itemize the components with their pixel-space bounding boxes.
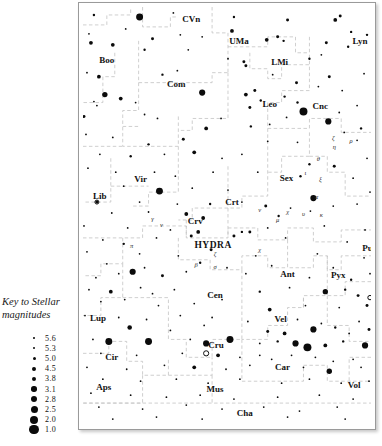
magnitude-legend: Key to Stellar magnitudes 5.65.35.04.53.… <box>0 296 78 446</box>
star-point <box>310 210 312 212</box>
star-point <box>151 37 154 40</box>
star-point <box>88 33 90 35</box>
star-point <box>161 73 163 75</box>
star-point <box>352 358 354 360</box>
star-point <box>177 255 179 257</box>
constellation-boundary-line <box>178 166 228 220</box>
star-point <box>102 92 107 97</box>
star-point <box>318 394 320 396</box>
star-point <box>109 290 113 294</box>
legend-row: 5.6 <box>26 333 56 343</box>
star-point <box>350 279 352 281</box>
deep-sky-object-marker <box>204 351 209 356</box>
star-point <box>323 343 327 347</box>
star-point <box>268 308 272 312</box>
star-point <box>88 289 90 291</box>
star-point <box>296 101 298 103</box>
star-point <box>130 394 132 396</box>
star-point <box>248 106 251 109</box>
star-point <box>211 317 213 319</box>
star-point <box>145 338 152 345</box>
star-point <box>199 90 205 96</box>
legend-magnitude-value: 3.1 <box>45 385 56 394</box>
star-point <box>130 269 136 275</box>
constellation-label-crt: Crt <box>225 197 239 207</box>
star-point <box>305 305 307 307</box>
star-point <box>227 336 234 343</box>
legend-star-dot <box>26 416 42 424</box>
star-point <box>144 267 146 269</box>
legend-row: 5.0 <box>26 353 56 363</box>
star-point <box>164 364 166 366</box>
star-designation-label: ζ <box>332 134 335 141</box>
star-point <box>333 18 337 22</box>
star-point <box>176 203 178 205</box>
legend-magnitude-value: 2.5 <box>45 405 56 414</box>
star-point <box>332 205 334 207</box>
constellation-label-vel: Vel <box>275 314 287 324</box>
constellation-boundary-line <box>83 7 131 25</box>
star-point <box>86 251 88 253</box>
star-point <box>179 34 181 36</box>
legend-star-dot <box>26 406 42 413</box>
star-point <box>221 157 223 159</box>
legend-magnitude-value: 2.0 <box>45 415 56 424</box>
star-point <box>352 398 354 400</box>
constellation-boundary-line <box>83 341 168 375</box>
star-point <box>102 239 104 241</box>
star-point <box>127 227 129 229</box>
legend-star-dot <box>26 386 42 391</box>
star-point <box>343 132 345 134</box>
legend-entries: 5.65.35.04.53.83.12.82.52.01.0 <box>26 333 56 435</box>
constellation-label-cen: Cen <box>207 290 223 300</box>
star-point <box>156 237 158 239</box>
star-chart-frame: CVnUMaLynBooLMiComLeoCncVirSexLibCrtCrvH… <box>78 2 376 430</box>
star-point <box>241 153 243 155</box>
legend-star-dot <box>26 396 42 402</box>
star-point <box>297 319 299 321</box>
star-point <box>86 366 88 368</box>
constellation-label-lib: Lib <box>93 191 107 201</box>
star-point <box>249 364 251 366</box>
star-point <box>339 14 342 17</box>
star-point <box>175 378 177 380</box>
star-point <box>338 307 340 309</box>
star-point <box>100 352 102 354</box>
star-point <box>328 75 331 78</box>
star-point <box>282 40 284 42</box>
star-point <box>292 340 298 346</box>
constellation-label-ant: Ant <box>280 269 295 279</box>
constellation-label-car: Car <box>275 362 290 372</box>
star-point <box>172 12 174 14</box>
star-point <box>310 326 316 332</box>
constellation-boundary-line <box>83 238 123 276</box>
star-point <box>363 73 365 75</box>
legend-star-dot <box>26 357 42 360</box>
star-point <box>308 163 310 165</box>
star-point <box>201 418 203 420</box>
star-point <box>303 343 311 351</box>
star-point <box>323 289 328 294</box>
star-point <box>216 353 220 357</box>
star-designation-label: β <box>195 260 198 267</box>
star-point <box>285 237 287 239</box>
star-point <box>356 139 358 141</box>
star-point <box>242 60 245 63</box>
star-point <box>271 358 273 360</box>
star-point <box>369 273 371 275</box>
star-point <box>327 369 332 374</box>
star-point <box>266 330 269 333</box>
star-point <box>112 136 114 138</box>
star-point <box>111 43 115 47</box>
star-designation-label: ι <box>305 169 307 176</box>
star-point <box>317 86 319 88</box>
star-point <box>136 354 138 356</box>
constellation-label-leo: Leo <box>262 99 277 109</box>
star-designation-label: χ <box>258 245 261 252</box>
star-point <box>140 380 142 382</box>
star-point <box>244 93 248 97</box>
constellation-label-cha: Cha <box>237 408 253 418</box>
star-point <box>204 127 208 131</box>
star-point <box>140 287 142 289</box>
star-point <box>232 234 235 237</box>
